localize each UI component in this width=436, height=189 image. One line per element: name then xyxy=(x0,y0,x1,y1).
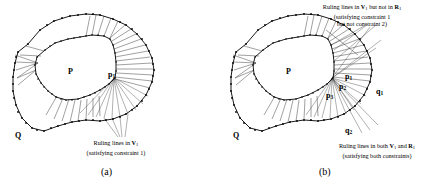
panel-b-label-p3: p3 xyxy=(326,92,333,101)
panel-a-ann-pre: Ruling lines in xyxy=(94,139,132,146)
panel-a-annotation-line1: Ruling lines in V1 xyxy=(62,139,170,149)
panel-a-p1-sub: 1 xyxy=(112,73,115,79)
panel-a-inner-vertices xyxy=(34,34,117,101)
figure-svg xyxy=(0,0,436,189)
panel-b-label-q1: q1 xyxy=(376,88,383,97)
panel-b-label-Q: Q xyxy=(233,132,239,140)
panel-a-label-p1: p1 xyxy=(108,71,115,80)
panel-b-label-p1: p1 xyxy=(345,73,352,82)
panel-a-ann-subV: 1 xyxy=(136,142,138,147)
panel-a-annotation-line2: (satisfying constraint 1) xyxy=(62,149,170,157)
panel-b-ann-bot-subR: 1 xyxy=(413,145,415,150)
panel-b-label-P: P xyxy=(286,68,291,76)
panel-b-ann-top-line3: but not constraint 2) xyxy=(288,20,436,28)
panel-a-outer-polygon xyxy=(13,14,154,131)
panel-b-annotation-top: Ruling lines in V1 but not in R1 (satisf… xyxy=(288,3,436,28)
panel-b-p3-sub: 3 xyxy=(330,94,333,100)
panel-a-inner-polygon xyxy=(35,35,116,100)
panel-b-p2-sub: 2 xyxy=(343,85,346,91)
panel-b-annotation-bottom: Ruling lines in both V1 and R1 (satisfyi… xyxy=(318,142,436,159)
panel-b-ann-bot-line2: (satisfying both constraints) xyxy=(318,152,436,160)
panel-a-label-Q: Q xyxy=(15,132,21,140)
panel-b-inner-vertices xyxy=(252,34,335,101)
panel-b-ann-bot-line1: Ruling lines in both V1 and R1 xyxy=(318,142,436,152)
panel-b-ann-top-pre: Ruling lines in xyxy=(323,3,361,10)
panel-b-ann-top-mid: but not in xyxy=(368,3,395,10)
panel-a-label-P: P xyxy=(68,68,73,76)
panel-b-label-p2: p2 xyxy=(339,83,346,92)
panel-a-ruling-lines xyxy=(15,15,153,137)
panel-b-q1-sub: 1 xyxy=(380,90,383,96)
panel-b-ann-top-line1: Ruling lines in V1 but not in R1 xyxy=(288,3,436,13)
panel-b-q2-sub: 2 xyxy=(349,129,352,135)
figure-container: P Q p1 Ruling lines in V1 (satisfying co… xyxy=(0,0,436,189)
panel-b-leader-line xyxy=(326,30,358,55)
panel-b-caption: (b) xyxy=(319,166,331,177)
panel-b-label-q2: q2 xyxy=(345,127,352,136)
panel-a-annotation: Ruling lines in V1 (satisfying constrain… xyxy=(62,139,170,156)
panel-b-p1-sub: 1 xyxy=(349,75,352,81)
panel-b-inner-polygon xyxy=(253,35,334,100)
panel-b-ann-top-line2: (satisfying constraint 1 xyxy=(288,13,436,21)
panel-b-ann-bot-pre: Ruling lines in both xyxy=(339,142,390,149)
panel-b-ann-top-subR: 1 xyxy=(399,6,401,11)
panel-a-caption: (a) xyxy=(101,166,112,177)
panel-b-graphics xyxy=(230,13,381,133)
panel-a-graphics xyxy=(12,13,155,137)
panel-b-ann-bot-mid: and xyxy=(396,142,408,149)
